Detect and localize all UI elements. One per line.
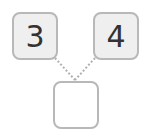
answer-box[interactable] <box>53 81 99 129</box>
left-number-box: 3 <box>12 12 58 60</box>
left-connector <box>55 58 75 80</box>
right-connector <box>75 58 95 80</box>
right-number-box: 4 <box>93 12 139 60</box>
right-number: 4 <box>106 19 125 54</box>
left-number: 3 <box>25 19 44 54</box>
